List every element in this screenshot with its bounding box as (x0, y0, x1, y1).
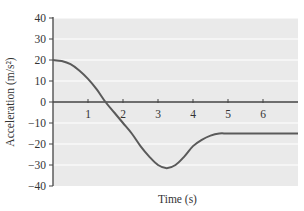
acceleration-chart: 403020100−10−20−30−40 123456 Acceleratio… (0, 0, 304, 211)
y-tick-label: −20 (28, 138, 46, 150)
x-tick-label: 3 (155, 108, 161, 120)
y-tick-label: 0 (40, 96, 46, 108)
x-tick-label: 1 (85, 108, 91, 120)
y-tick-label: 20 (35, 54, 47, 66)
x-tick-label: 5 (225, 108, 231, 120)
y-tick-label: 40 (35, 12, 47, 24)
x-axis-title: Time (s) (158, 193, 197, 206)
y-axis-title: Acceleration (m/s²) (4, 57, 17, 147)
chart-canvas: 403020100−10−20−30−40 123456 Acceleratio… (0, 0, 304, 211)
y-tick-label: 30 (35, 33, 47, 45)
y-tick-label: −10 (28, 117, 46, 129)
x-tick-label: 2 (120, 108, 126, 120)
y-axis: 403020100−10−20−30−40 (28, 12, 53, 192)
y-tick-label: 10 (35, 75, 47, 87)
x-tick-label: 4 (190, 108, 196, 120)
y-tick-label: −30 (28, 159, 46, 171)
y-tick-label: −40 (28, 180, 46, 192)
x-tick-label: 6 (260, 108, 266, 120)
